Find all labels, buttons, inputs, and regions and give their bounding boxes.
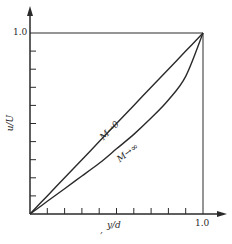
x-axis-label: y/d <box>107 220 121 230</box>
x-axis-ticks <box>47 208 185 214</box>
y-axis-arrow-icon <box>27 6 33 16</box>
x-axis-label-prefix: , <box>100 225 103 235</box>
y-axis-ticks <box>30 51 36 196</box>
y-axis-label: u/U <box>5 115 15 131</box>
x-axis-arrow-icon <box>217 211 227 217</box>
x-tick-label-1: 1.0 <box>195 218 209 228</box>
y-tick-label-1: 1.0 <box>13 27 27 37</box>
